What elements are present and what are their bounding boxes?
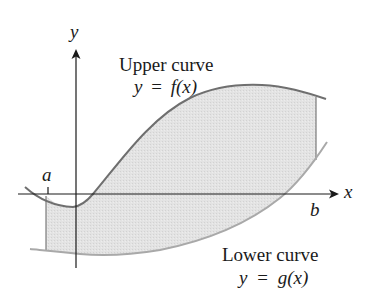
upper-eq-rhs: f(x) bbox=[171, 76, 197, 98]
y-axis-label: y bbox=[68, 21, 79, 42]
lower-eq-equals: = bbox=[257, 267, 268, 288]
bound-b-label: b bbox=[310, 199, 320, 220]
upper-eq-equals: = bbox=[151, 76, 162, 97]
lower-eq-lhs: y bbox=[237, 267, 248, 288]
lower-curve-equation: y = g(x) bbox=[237, 267, 308, 289]
bound-a-label: a bbox=[42, 164, 52, 185]
lower-curve-title: Lower curve bbox=[222, 244, 319, 265]
area-between-curves-diagram: y x a b Upper curve y = f(x) Lower curve… bbox=[0, 0, 375, 301]
x-axis-label: x bbox=[343, 181, 353, 202]
lower-eq-rhs: g(x) bbox=[278, 267, 309, 289]
upper-eq-lhs: y bbox=[132, 76, 143, 97]
shaded-area-region bbox=[46, 85, 316, 255]
upper-curve-title: Upper curve bbox=[119, 54, 213, 75]
upper-curve-equation: y = f(x) bbox=[132, 76, 197, 98]
